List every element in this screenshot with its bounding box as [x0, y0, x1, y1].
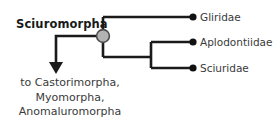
- clade-label-sciuromorpha: Sciuromorpha: [16, 17, 108, 31]
- tip-label-aplodontiidae: Aplodontiidae: [200, 36, 272, 48]
- outgroup-arrowhead: [49, 62, 63, 74]
- outgroup-note-line-3: Anomaluromorpha: [0, 105, 140, 120]
- outgroup-note-line-2: Myomorpha,: [0, 91, 140, 106]
- outgroup-stem: [56, 36, 103, 64]
- cladogram-figure: Sciuromorpha Gliridae Aplodontiidae Sciu…: [0, 0, 275, 123]
- sciuromorpha-node-circle: [97, 30, 110, 43]
- tip-dot-sciuridae: [189, 64, 196, 71]
- outgroup-note: to Castorimorpha, Myomorpha, Anomaluromo…: [0, 76, 140, 120]
- tip-dot-aplodontiidae: [189, 38, 196, 45]
- tip-label-gliridae: Gliridae: [200, 11, 241, 23]
- outgroup-note-line-1: to Castorimorpha,: [0, 76, 140, 91]
- tip-dot-gliridae: [189, 13, 196, 20]
- tip-label-sciuridae: Sciuridae: [200, 62, 249, 74]
